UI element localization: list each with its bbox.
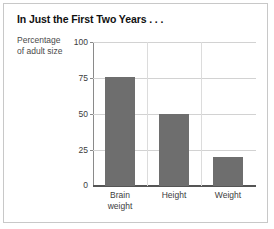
figure-frame: In Just the First Two Years . . . Percen… — [3, 3, 268, 223]
ytick-mark-100 — [90, 42, 93, 43]
y-axis-label: Percentage of adult size — [17, 35, 62, 56]
category-separator-1 — [147, 42, 148, 186]
ytick-mark-25 — [90, 150, 93, 151]
ytick-label-0: 0 — [83, 180, 88, 190]
bar-brain-weight — [105, 77, 135, 186]
category-label-height: Height — [147, 190, 201, 201]
category-label-weight-line-1: Weight — [201, 190, 255, 201]
ytick-label-25: 25 — [79, 145, 88, 155]
bar-height — [159, 114, 189, 186]
category-label-height-line-1: Height — [147, 190, 201, 201]
y-axis-label-line-2: of adult size — [17, 46, 62, 57]
y-axis-label-line-1: Percentage — [17, 35, 62, 46]
ytick-mark-75 — [90, 78, 93, 79]
chart-title: In Just the First Two Years . . . — [17, 13, 163, 25]
chart-screenshot: In Just the First Two Years . . . Percen… — [0, 0, 274, 229]
category-label-brain-weight-line-1: Brain — [93, 190, 147, 201]
ytick-label-75: 75 — [79, 73, 88, 83]
ytick-mark-50 — [90, 114, 93, 115]
category-separator-2 — [201, 42, 202, 186]
plot-area: 100 75 50 25 0 Brain weight — [93, 42, 256, 186]
title-divider — [17, 30, 262, 31]
category-label-brain-weight: Brain weight — [93, 190, 147, 211]
ytick-label-100: 100 — [74, 37, 88, 47]
category-label-brain-weight-line-2: weight — [93, 201, 147, 212]
gridline-100 — [93, 42, 256, 43]
category-label-weight: Weight — [201, 190, 255, 201]
ytick-label-50: 50 — [79, 109, 88, 119]
bar-weight — [213, 157, 243, 186]
